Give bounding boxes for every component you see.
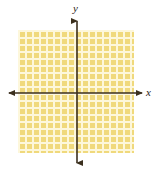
y-axis-label: y — [73, 3, 78, 14]
coordinate-plane-figure: y x — [0, 0, 156, 169]
x-axis-label: x — [146, 87, 151, 98]
axes-layer — [0, 0, 156, 169]
